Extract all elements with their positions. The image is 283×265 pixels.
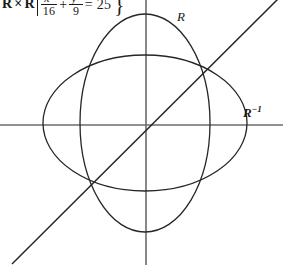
formula-set-left: R: [2, 0, 12, 11]
formula-set-right: R: [25, 0, 35, 11]
relation-plot: [0, 0, 283, 265]
formula-operator: +: [57, 0, 69, 12]
formula-value: 25: [95, 0, 113, 12]
curve-label-r-inverse-exponent: −1: [252, 104, 262, 114]
formula-term-1: x²16: [41, 0, 57, 19]
formula-divider: [37, 0, 38, 16]
math-figure: R×Rx²16+y²9=25} R R−1: [0, 0, 283, 265]
set-builder-formula: R×Rx²16+y²9=25}: [2, 0, 123, 18]
formula-term-2-denominator: 9: [69, 4, 82, 19]
formula-close-brace: }: [114, 0, 124, 16]
curve-label-r-inverse: R−1: [243, 105, 262, 119]
curve-label-r: R: [177, 10, 185, 23]
formula-cross: ×: [12, 0, 24, 11]
ellipse-relation-r: [43, 55, 247, 191]
formula-equals: =: [83, 0, 95, 12]
formula-term-1-denominator: 16: [41, 4, 57, 19]
identity-line: [12, 0, 283, 264]
formula-term-2: y²9: [69, 0, 82, 19]
ellipse-relation-r-inverse: [80, 14, 210, 232]
curve-label-r-inverse-base: R: [243, 105, 252, 120]
